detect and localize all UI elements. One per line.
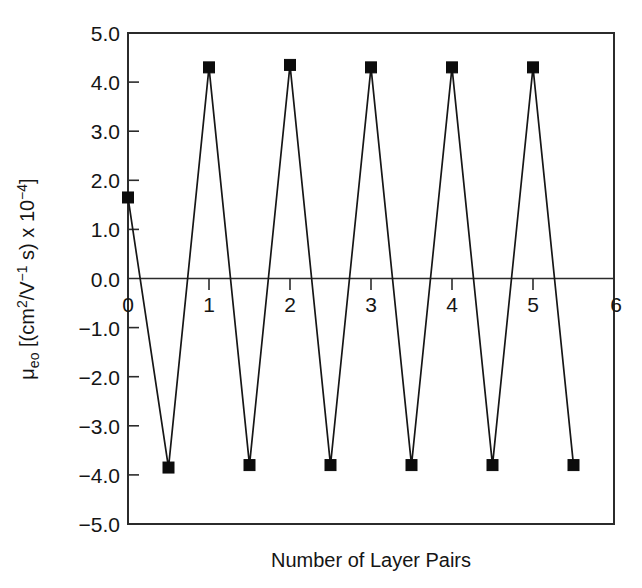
y-title-open: [(cm	[16, 308, 38, 352]
x-tick-labels: 0 1 2 3 4 5 6	[122, 293, 622, 316]
y-tick-label: −3.0	[79, 415, 120, 438]
y-axis-title: μeo [(cm2/V−1 s) x 10−4]	[14, 178, 42, 379]
x-tick-label: 6	[610, 293, 622, 316]
y-tick-label: 0.0	[91, 268, 120, 291]
data-point-marker	[528, 62, 539, 73]
data-point-marker	[406, 460, 417, 471]
y-tick-label: 5.0	[91, 22, 120, 45]
y-tick-label: 2.0	[91, 169, 120, 192]
x-tick-label: 2	[284, 293, 296, 316]
y-title-sup-2: 2	[14, 300, 30, 308]
x-axis-title: Number of Layer Pairs	[271, 549, 471, 571]
y-tick-label: 4.0	[91, 71, 120, 94]
y-title-sup-minus1: −1	[14, 265, 30, 281]
x-tick-label: 5	[527, 293, 539, 316]
y-tick-label: 1.0	[91, 218, 120, 241]
x-tick-label: 3	[365, 293, 377, 316]
y-title-close: ]	[16, 178, 38, 184]
data-point-marker	[123, 192, 134, 203]
data-series	[123, 59, 580, 473]
svg-text:μeo [(cm2/V−1 s) x 10−4]: μeo [(cm2/V−1 s) x 10−4]	[14, 178, 42, 379]
data-point-marker	[204, 62, 215, 73]
y-title-sub-eo: eo	[26, 352, 42, 368]
data-point-marker	[244, 460, 255, 471]
x-tick-label: 0	[122, 293, 134, 316]
y-title-mid: /V	[16, 281, 38, 301]
data-point-marker	[163, 462, 174, 473]
mobility-zigzag-chart: 5.0 4.0 3.0 2.0 1.0 0.0 −1.0 −2.0 −3.0 −…	[0, 0, 642, 588]
x-tick-marks	[209, 279, 533, 291]
data-point-marker	[366, 62, 377, 73]
data-point-marker	[285, 59, 296, 70]
x-tick-label: 1	[203, 293, 215, 316]
data-point-marker	[325, 460, 336, 471]
y-tick-label: −4.0	[79, 464, 120, 487]
y-tick-label: 3.0	[91, 120, 120, 143]
data-point-marker	[487, 460, 498, 471]
y-tick-label: −1.0	[79, 317, 120, 340]
data-point-marker	[568, 460, 579, 471]
data-point-marker	[447, 62, 458, 73]
chart-figure: 5.0 4.0 3.0 2.0 1.0 0.0 −1.0 −2.0 −3.0 −…	[0, 0, 642, 588]
series-line	[128, 65, 574, 468]
y-title-sup-minus4: −4	[14, 184, 30, 200]
x-tick-label: 4	[446, 293, 458, 316]
y-title-mu: μ	[16, 368, 38, 380]
y-tick-label: −2.0	[79, 366, 120, 389]
y-tick-label: −5.0	[79, 513, 120, 536]
y-title-mid2: s) x 10	[16, 200, 38, 266]
y-tick-labels: 5.0 4.0 3.0 2.0 1.0 0.0 −1.0 −2.0 −3.0 −…	[79, 22, 120, 536]
